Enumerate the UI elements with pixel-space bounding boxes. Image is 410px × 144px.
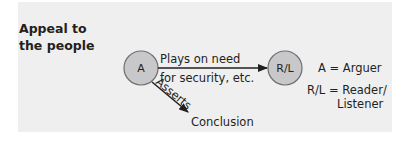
conclusion-label: Conclusion (191, 115, 254, 129)
legend-reader-line-1: R/L = Reader/ (307, 83, 387, 97)
node-arguer: A (124, 51, 158, 85)
edge-label-plays-on-2: for security, etc. (160, 71, 254, 85)
legend-reader-line-2: Listener (337, 97, 383, 111)
node-arguer-label: A (137, 62, 145, 75)
legend-arguer: A = Arguer (318, 61, 382, 75)
node-reader-label: R/L (276, 62, 294, 75)
edge-label-plays-on-1: Plays on need (160, 52, 240, 66)
node-reader-listener: R/L (268, 51, 302, 85)
